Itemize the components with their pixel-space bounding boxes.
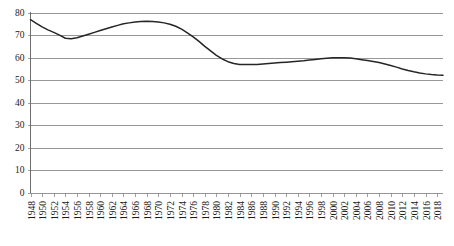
x-tick-label: 1964 (119, 201, 129, 220)
x-tick-label: 2000 (329, 201, 339, 220)
x-tick-label: 1992 (282, 201, 292, 220)
x-tick-label: 1996 (305, 201, 315, 220)
x-tick-label: 1970 (154, 201, 164, 220)
x-tick-label: 1974 (178, 201, 188, 220)
x-tick-label: 1954 (61, 201, 71, 220)
x-tick-label: 2016 (422, 201, 432, 220)
x-tick-label: 2002 (340, 201, 350, 220)
y-tick-label: 50 (15, 75, 25, 85)
x-tick-label: 1978 (201, 201, 211, 220)
y-tick-label: 60 (15, 53, 25, 63)
y-tick-label: 30 (15, 120, 25, 130)
x-tick-label: 2018 (433, 201, 443, 220)
x-tick-label: 1984 (236, 201, 246, 220)
x-tick-label: 1962 (108, 201, 118, 220)
y-tick-label: 80 (15, 8, 25, 18)
x-tick-label: 1958 (85, 201, 95, 220)
x-tick-label: 1952 (50, 201, 60, 220)
x-tick-label: 1976 (189, 201, 199, 220)
x-tick-label: 1994 (294, 201, 304, 220)
x-tick-label: 1998 (317, 201, 327, 220)
x-tick-label: 1948 (27, 201, 37, 220)
x-tick-label: 1960 (96, 201, 106, 220)
y-axis-tick-labels: 01020304050607080 (15, 8, 25, 198)
x-tick-label: 2014 (410, 201, 420, 220)
x-tick-label: 1966 (131, 201, 141, 220)
x-tick-label: 2008 (375, 201, 385, 220)
x-tick-label: 1950 (38, 201, 48, 220)
x-tick-label: 2006 (363, 201, 373, 220)
x-tick-label: 1982 (224, 201, 234, 220)
x-tick-label: 1956 (73, 201, 83, 220)
x-axis-tick-labels: 1948195019521954195619581960196219641966… (27, 201, 443, 220)
x-tick-label: 1968 (143, 201, 153, 220)
x-tick-label: 2004 (352, 201, 362, 220)
y-tick-label: 20 (15, 143, 25, 153)
y-tick-label: 70 (15, 30, 25, 40)
y-tick-label: 10 (15, 165, 25, 175)
x-tick-label: 1990 (271, 201, 281, 220)
x-tick-label: 1988 (259, 201, 269, 220)
gridlines (31, 14, 444, 194)
y-tick-label: 0 (20, 188, 25, 198)
x-tick-label: 2010 (387, 201, 397, 220)
x-tick-label: 1980 (212, 201, 222, 220)
y-tick-label: 40 (15, 98, 25, 108)
line-chart: 01020304050607080 1948195019521954195619… (0, 0, 454, 246)
chart-page: 01020304050607080 1948195019521954195619… (0, 0, 454, 246)
data-series-line (31, 20, 444, 76)
x-tick-label: 1972 (166, 201, 176, 220)
x-tick-label: 2012 (398, 201, 408, 220)
x-tick-label: 1986 (247, 201, 257, 220)
